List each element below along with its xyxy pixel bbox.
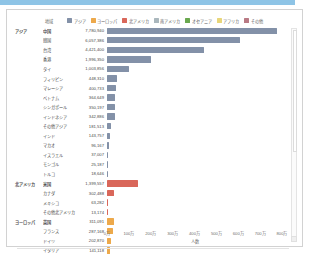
- row-country-label: 香港: [43, 56, 79, 62]
- bar[interactable]: [107, 218, 114, 224]
- legend-item[interactable]: オセアニア: [185, 18, 212, 24]
- bar[interactable]: [107, 85, 116, 91]
- row-value-label: 350,197: [79, 105, 107, 110]
- legend-item-label: その他: [251, 18, 263, 24]
- bar[interactable]: [107, 113, 115, 119]
- chart-row: 韓国6,057,386: [9, 36, 300, 46]
- x-axis-tick-label: 300万: [167, 230, 178, 236]
- row-value-label: 287,168: [79, 229, 107, 234]
- row-value-label: 6,057,386: [79, 38, 107, 43]
- legend-item[interactable]: 北アメリカ: [122, 18, 149, 24]
- row-bar-track: [107, 26, 300, 36]
- row-value-label: 181,513: [79, 124, 107, 129]
- row-region-label: ヨーロッパ: [9, 219, 43, 225]
- row-country-label: 韓国: [43, 37, 79, 43]
- bar[interactable]: [107, 199, 108, 205]
- legend-item[interactable]: アジア: [67, 18, 86, 24]
- chart-row: シンガポール350,197: [9, 102, 300, 112]
- row-value-label: 25,187: [79, 162, 107, 167]
- chart-row: その他アジア181,513: [9, 121, 300, 131]
- bar[interactable]: [107, 161, 108, 167]
- row-bar-track: [107, 160, 300, 170]
- scrollbar-thumb[interactable]: [293, 30, 297, 152]
- row-country-label: フィリピン: [43, 76, 79, 82]
- row-value-label: 37,007: [79, 152, 107, 157]
- bar[interactable]: [107, 152, 108, 158]
- vertical-scrollbar[interactable]: [291, 28, 297, 242]
- chart-card: 地域 アジアヨーロッパ北アメリカ南アメリカオセアニアアフリカその他 アジア中国7…: [6, 9, 303, 247]
- row-country-label: マレーシア: [43, 85, 79, 91]
- bar[interactable]: [107, 180, 138, 186]
- row-value-label: 302,488: [79, 191, 107, 196]
- row-value-label: 364,649: [79, 95, 107, 100]
- bar[interactable]: [107, 28, 277, 34]
- row-country-label: シンガポール: [43, 104, 79, 110]
- x-axis-tick-label: 0万: [104, 230, 110, 236]
- x-axis-tick-label: 100万: [123, 230, 134, 236]
- row-country-label: カナダ: [43, 190, 79, 196]
- bar[interactable]: [107, 190, 114, 196]
- bar[interactable]: [107, 104, 115, 110]
- legend-item-label: 南アメリカ: [160, 18, 180, 24]
- bar[interactable]: [107, 171, 108, 177]
- bar[interactable]: [107, 37, 240, 43]
- legend-item-label: アジア: [74, 18, 86, 24]
- legend-item[interactable]: その他: [244, 18, 263, 24]
- chart-row: ベトナム364,649: [9, 93, 300, 103]
- row-value-label: 96,167: [79, 143, 107, 148]
- legend-item[interactable]: アフリカ: [217, 18, 240, 24]
- bottom-divider: [17, 248, 289, 249]
- row-region-label: 北アメリカ: [9, 181, 43, 187]
- row-region-label: アジア: [9, 28, 43, 34]
- legend-items: アジアヨーロッパ北アメリカ南アメリカオセアニアアフリカその他: [67, 18, 297, 24]
- row-bar-track: [107, 188, 300, 198]
- row-country-label: 中国: [43, 28, 79, 34]
- chart-row: ヨーロッパ英国311,091: [9, 217, 300, 227]
- row-bar-track: [107, 217, 300, 227]
- chart-card-inner: 地域 アジアヨーロッパ北アメリカ南アメリカオセアニアアフリカその他 アジア中国7…: [9, 12, 300, 244]
- row-country-label: イスラエル: [43, 152, 79, 158]
- legend-item-label: ヨーロッパ: [97, 18, 117, 24]
- bar[interactable]: [107, 133, 110, 139]
- bar[interactable]: [107, 209, 108, 215]
- row-bar-track: [107, 55, 300, 65]
- chart-row: その他北アメリカ13,174: [9, 207, 300, 217]
- bar[interactable]: [107, 56, 151, 62]
- chart-row: イスラエル37,007: [9, 150, 300, 160]
- top-accent-strip: [0, 0, 311, 5]
- legend-swatch-icon: [217, 18, 222, 23]
- row-value-label: 63,282: [79, 200, 107, 205]
- legend-title: 地域: [45, 18, 63, 24]
- bar[interactable]: [107, 66, 129, 72]
- row-country-label: インドネシア: [43, 114, 79, 120]
- row-value-label: 18,646: [79, 171, 107, 176]
- chart-row: インド143,757: [9, 131, 300, 141]
- bar[interactable]: [107, 75, 117, 81]
- legend-swatch-icon: [185, 18, 190, 23]
- row-value-label: 1,003,856: [79, 66, 107, 71]
- chart-row: イタリア141,118: [9, 246, 300, 254]
- row-bar-track: [107, 36, 300, 46]
- legend-item[interactable]: 南アメリカ: [154, 18, 181, 24]
- row-value-label: 1,996,350: [79, 57, 107, 62]
- row-value-label: 448,310: [79, 76, 107, 81]
- row-bar-track: [107, 93, 300, 103]
- legend-item-label: オセアニア: [192, 18, 212, 24]
- chart-row: トルコ18,646: [9, 169, 300, 179]
- row-bar-track: [107, 246, 300, 254]
- x-axis-tick-label: 600万: [233, 230, 244, 236]
- row-country-label: タイ: [43, 66, 79, 72]
- chart-row: 台湾4,421,400: [9, 45, 300, 55]
- legend-item[interactable]: ヨーロッパ: [91, 18, 118, 24]
- x-axis-tick-label: 700万: [255, 230, 266, 236]
- row-country-label: ドイツ: [43, 238, 79, 244]
- bar[interactable]: [107, 94, 115, 100]
- bar[interactable]: [107, 142, 109, 148]
- row-country-label: 米国: [43, 181, 79, 187]
- legend-swatch-icon: [122, 18, 127, 23]
- row-bar-track: [107, 45, 300, 55]
- row-bar-track: [107, 179, 300, 189]
- bar[interactable]: [107, 123, 111, 129]
- chart-row: モンゴル25,187: [9, 160, 300, 170]
- bar[interactable]: [107, 47, 204, 53]
